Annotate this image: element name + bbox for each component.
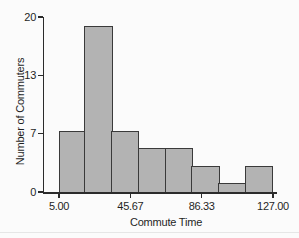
x-tick [58,194,60,199]
y-tick-label: 13 [10,69,36,82]
page-edge-line [0,232,299,233]
histogram-bar [165,148,193,193]
x-tick-label: 45.67 [106,200,154,213]
x-tick [201,194,203,199]
y-tick-label: 7 [10,127,36,140]
histogram-bar [245,166,273,194]
y-tick [38,133,43,135]
x-axis-title: Commute Time [66,216,266,229]
histogram-bar [111,131,139,194]
histogram-chart: Number of Commuters 0713205.0045.6786.33… [0,0,299,238]
x-tick [272,194,274,199]
x-tick-label: 86.33 [178,200,226,213]
histogram-bar [59,131,86,194]
screenshot-canvas: { "chart_data": { "type": "bar", "chart_… [0,0,299,238]
y-tick [38,75,43,77]
histogram-bar [138,148,166,193]
y-tick [38,191,43,193]
y-axis-line [43,17,45,194]
x-tick-label: 127.00 [249,200,297,213]
y-tick-label: 20 [10,11,36,24]
histogram-bar [84,26,112,194]
x-axis-line [43,192,278,194]
y-tick-label: 0 [10,186,36,199]
y-tick [38,16,43,18]
x-tick [130,194,132,199]
histogram-bar [191,166,219,194]
x-tick-label: 5.00 [35,200,83,213]
